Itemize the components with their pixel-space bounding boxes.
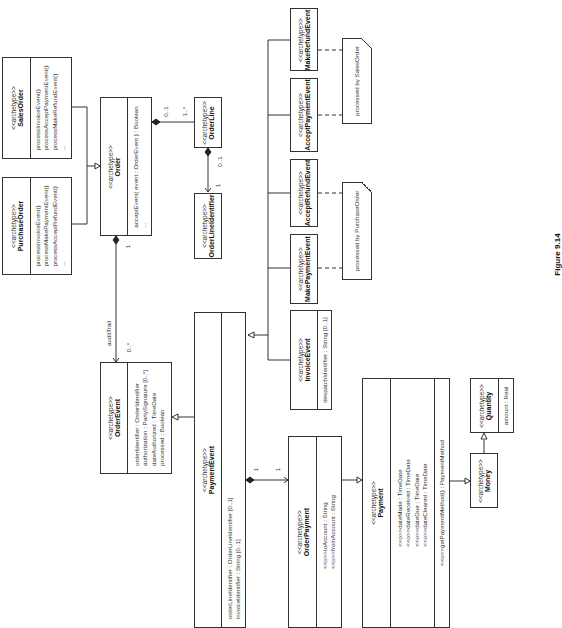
class-make-payment-event[interactable]: <<archetype>>MakePaymentEvent (290, 234, 318, 304)
multiplicity-label: 1 (252, 468, 259, 471)
attributes-compartment: orderLineIdentifier : OrderLineIdentifie… (222, 313, 245, 627)
operation: acceptEvent( event : OrderEvent ) : Bool… (131, 106, 139, 227)
class-name: Order (114, 145, 121, 189)
attribute: <<o>>dateDue : TimeDate (413, 459, 421, 546)
attribute: amount : Real (502, 386, 510, 425)
class-name: PaymentEvent (208, 446, 215, 494)
class-accept-refund-event[interactable]: <<archetype>>AcceptRefundEvent (290, 159, 318, 227)
class-order-line[interactable]: <<archetype>>OrderLine (194, 97, 222, 148)
attributes-compartment: orderIdentifier : OrderIdentifier author… (128, 363, 171, 473)
class-payment[interactable]: <<archetype>>Payment <<o>>dateMade : Tim… (362, 378, 450, 628)
class-name: SalesOrder (17, 86, 24, 130)
multiplicity-label: 1 (214, 184, 221, 187)
class-sales-order[interactable]: <<archetype>>SalesOrder processInvoiceEv… (2, 57, 72, 159)
stereotype: <<archetype>> (201, 101, 208, 145)
stereotype: <<archetype>> (10, 86, 17, 130)
figure-caption: Figure 9.14 (553, 233, 562, 275)
note-processed-by-purchase-order: processed by PurchaseOrder (342, 182, 372, 280)
stereotype: <<archetype>> (296, 508, 303, 556)
class-accept-payment-event[interactable]: <<archetype>>AcceptPaymentEvent (290, 78, 318, 152)
stereotype: <<archetype>> (297, 236, 304, 302)
stereotype: <<archetype>> (297, 79, 304, 151)
multiplicity-label: 0..1 (216, 156, 223, 166)
stereotype: <<archetype>> (370, 481, 377, 525)
attribute: orderIdentifier : OrderIdentifier (133, 370, 141, 466)
operation: processInvoiceEvent() (34, 66, 42, 151)
note-text: processed by SalesOrder (353, 46, 361, 116)
operation: <<o>>getPaymentMethod() : PaymentMethod (438, 440, 446, 566)
class-name: MakeRefundEvent (304, 9, 311, 70)
operation: ... (59, 185, 67, 266)
attributes-compartment: amount : Real (499, 379, 513, 432)
attributes-compartment: <<o>>toAccount : String <<o>>fromAccount… (317, 437, 341, 627)
attribute: <<o>>fromAccount : String (329, 495, 337, 569)
stereotype: <<archetype>> (297, 160, 304, 227)
attribute: dateAuthorized : TimeDate (150, 370, 158, 466)
class-make-refund-event[interactable]: <<archetype>>MakeRefundEvent (290, 8, 318, 71)
class-header: <<archetype>>InvoiceEvent (291, 311, 318, 409)
note-fold (362, 182, 372, 192)
class-header: <<archetype>>Payment (363, 379, 391, 627)
note-text: processed by PurchaseOrder (353, 191, 361, 271)
class-name: OrderLine (208, 101, 215, 145)
class-money[interactable]: <<archetype>>Money (470, 453, 498, 508)
class-order-line-identifier[interactable]: <<archetype>>OrderLineIdentifier (194, 193, 222, 259)
stereotype: <<archetype>> (297, 9, 304, 70)
class-order-event[interactable]: <<archetype>>OrderEvent orderIdentifier … (100, 362, 172, 474)
class-header: <<archetype>>SalesOrder (3, 58, 31, 158)
operation: ... (140, 106, 148, 227)
operation: processAcceptPaymentEvent() (43, 66, 51, 151)
multiplicity-label: 1..* (181, 107, 188, 116)
stereotype: <<archetype>> (107, 145, 114, 189)
class-name: Money (484, 459, 491, 503)
class-header: <<archetype>>PaymentEvent (195, 313, 222, 627)
note-fold (362, 38, 372, 48)
stereotype: <<archetype>> (201, 446, 208, 494)
class-purchase-order[interactable]: <<archetype>>PurchaseOrder processInvoic… (2, 177, 72, 275)
class-name: AcceptRefundEvent (304, 160, 311, 227)
operations-compartment: acceptEvent( event : OrderEvent ) : Bool… (128, 98, 151, 235)
attributes-compartment: despatchIdentifier : String [0..1] (318, 311, 331, 409)
operation: processInvoiceEvent() (34, 185, 42, 266)
operation: ... (59, 66, 67, 151)
attribute: <<o>>dateReceived : TimeDate (404, 459, 412, 546)
operations-compartment: <<o>>getPaymentMethod() : PaymentMethod (435, 379, 449, 627)
class-name: OrderLineIdentifier (208, 194, 215, 257)
class-payment-event[interactable]: <<archetype>>PaymentEvent orderLineIdent… (194, 312, 246, 628)
operation: processMakePaymentEvent() (43, 185, 51, 266)
stereotype: <<archetype>> (478, 384, 485, 428)
class-header: <<archetype>>OrderEvent (101, 363, 128, 473)
stereotype: <<archetype>> (297, 338, 304, 382)
note-processed-by-sales-order: processed by SalesOrder (342, 38, 372, 124)
class-header: <<archetype>>PurchaseOrder (3, 178, 31, 274)
class-name: Payment (377, 481, 384, 525)
class-name: AcceptPaymentEvent (304, 79, 311, 151)
class-header: <<archetype>>OrderPayment (289, 437, 317, 627)
multiplicity-label: 0..1 (162, 106, 169, 116)
multiplicity-label: 1 (124, 245, 131, 248)
class-order-payment[interactable]: <<archetype>>OrderPayment <<o>>toAccount… (288, 436, 342, 628)
attribute: processed : Boolean (158, 370, 166, 466)
multiplicity-label: 0..* (125, 343, 132, 352)
stereotype: <<archetype>> (10, 201, 17, 252)
class-name: Quantity (485, 384, 492, 428)
class-name: MakePaymentEvent (304, 236, 311, 302)
operation: processAcceptRefundEvent() (51, 185, 59, 266)
attribute: <<o>>dateCleared : TimeDate (421, 459, 429, 546)
class-header: <<archetype>>Order (101, 98, 128, 235)
class-name: OrderEvent (114, 396, 121, 440)
class-header: <<archetype>>Quantity (471, 379, 499, 432)
attributes-compartment: <<o>>dateMade : TimeDate <<o>>dateReceiv… (391, 379, 435, 627)
class-invoice-event[interactable]: <<archetype>>InvoiceEvent despatchIdenti… (290, 310, 332, 410)
class-quantity[interactable]: <<archetype>>Quantity amount : Real (470, 378, 514, 433)
stereotype: <<archetype>> (477, 459, 484, 503)
attribute: invoiceIdentifier : String [0..1] (234, 498, 242, 620)
class-name: PurchaseOrder (17, 201, 24, 252)
role-label: auditTrail (105, 321, 112, 346)
class-order[interactable]: <<archetype>>Order acceptEvent( event : … (100, 97, 152, 236)
attribute: <<o>>dateMade : TimeDate (396, 459, 404, 546)
operation: processMakeRefundEvent() (51, 66, 59, 151)
operations-compartment: processInvoiceEvent() processAcceptPayme… (31, 58, 71, 158)
operations-compartment: processInvoiceEvent() processMakePayment… (31, 178, 71, 274)
